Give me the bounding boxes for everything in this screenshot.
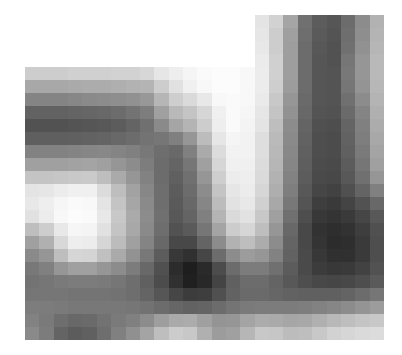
matrix-cell [283, 197, 297, 210]
matrix-cell [226, 262, 240, 275]
matrix-cell [97, 210, 111, 223]
matrix-cell [97, 132, 111, 145]
matrix-cell [54, 236, 68, 249]
matrix-cell [97, 93, 111, 106]
matrix-cell [298, 132, 312, 145]
matrix-cell [197, 106, 211, 119]
matrix-cell [169, 301, 183, 314]
matrix-cell [312, 106, 326, 119]
matrix-cell [154, 314, 168, 327]
matrix-cell [154, 223, 168, 236]
matrix-cell [212, 145, 226, 158]
matrix-cell [183, 145, 197, 158]
matrix-cell [370, 41, 384, 54]
matrix-cell [197, 184, 211, 197]
matrix-cell [341, 275, 355, 288]
matrix-cell [111, 28, 125, 41]
matrix-cell [183, 41, 197, 54]
matrix-cell [341, 236, 355, 249]
matrix-cell [111, 106, 125, 119]
matrix-cell [240, 145, 254, 158]
matrix-cell [111, 327, 125, 340]
matrix-cell [312, 327, 326, 340]
matrix-cell [54, 67, 68, 80]
matrix-cell [140, 197, 154, 210]
matrix-cell [54, 15, 68, 28]
matrix-cell [39, 301, 53, 314]
matrix-cell [197, 41, 211, 54]
matrix-cell [111, 158, 125, 171]
matrix-cell [25, 145, 39, 158]
matrix-cell [197, 15, 211, 28]
matrix-cell [327, 15, 341, 28]
matrix-cell [240, 80, 254, 93]
matrix-cell [169, 210, 183, 223]
matrix-cell [82, 275, 96, 288]
matrix-cell [197, 171, 211, 184]
matrix-cell [39, 67, 53, 80]
matrix-cell [283, 184, 297, 197]
matrix-cell [197, 275, 211, 288]
matrix-cell [82, 93, 96, 106]
matrix-cell [183, 171, 197, 184]
matrix-cell [327, 171, 341, 184]
matrix-cell [97, 145, 111, 158]
matrix-cell [197, 314, 211, 327]
matrix-cell [140, 288, 154, 301]
matrix-cell [183, 223, 197, 236]
matrix-cell [269, 249, 283, 262]
matrix-cell [255, 314, 269, 327]
matrix-cell [39, 184, 53, 197]
matrix-cell [283, 54, 297, 67]
matrix-cell [111, 119, 125, 132]
matrix-cell [126, 223, 140, 236]
matrix-cell [183, 210, 197, 223]
matrix-cell [226, 54, 240, 67]
matrix-cell [226, 28, 240, 41]
matrix-cell [111, 67, 125, 80]
matrix-cell [327, 210, 341, 223]
matrix-cell [82, 15, 96, 28]
matrix-cell [111, 197, 125, 210]
matrix-cell [355, 249, 369, 262]
matrix-cell [240, 327, 254, 340]
matrix-cell [140, 314, 154, 327]
matrix-cell [126, 314, 140, 327]
matrix-cell [97, 106, 111, 119]
matrix-cell [355, 327, 369, 340]
matrix-cell [298, 275, 312, 288]
matrix-cell [226, 210, 240, 223]
matrix-cell [226, 119, 240, 132]
matrix-cell [269, 145, 283, 158]
matrix-cell [25, 93, 39, 106]
matrix-cell [169, 171, 183, 184]
matrix-cell [355, 145, 369, 158]
matrix-cell [154, 106, 168, 119]
matrix-cell [370, 249, 384, 262]
matrix-cell [126, 132, 140, 145]
matrix-cell [312, 119, 326, 132]
matrix-cell [255, 106, 269, 119]
matrix-cell [97, 54, 111, 67]
matrix-cell [25, 54, 39, 67]
matrix-cell [97, 184, 111, 197]
matrix-cell [39, 197, 53, 210]
matrix-cell [226, 275, 240, 288]
matrix-cell [54, 184, 68, 197]
matrix-cell [341, 262, 355, 275]
matrix-cell [140, 80, 154, 93]
matrix-cell [312, 28, 326, 41]
matrix-cell [97, 41, 111, 54]
matrix-cell [355, 80, 369, 93]
matrix-cell [283, 132, 297, 145]
matrix-cell [68, 54, 82, 67]
matrix-cell [25, 223, 39, 236]
matrix-cell [255, 132, 269, 145]
matrix-cell [54, 197, 68, 210]
matrix-cell [312, 158, 326, 171]
matrix-cell [82, 54, 96, 67]
matrix-cell [111, 15, 125, 28]
matrix-cell [212, 197, 226, 210]
matrix-cell [82, 210, 96, 223]
matrix-cell [183, 80, 197, 93]
